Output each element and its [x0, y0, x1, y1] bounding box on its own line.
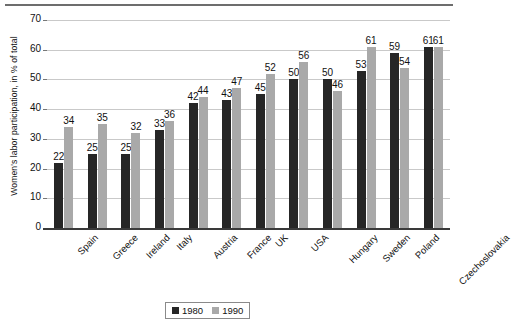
bar-group: 2535: [81, 20, 115, 228]
bar-group: 4244: [181, 20, 215, 228]
bar-1990: 47: [232, 88, 241, 228]
x-axis-label-usa: USA: [309, 232, 331, 254]
legend-label-1990: 1990: [222, 305, 243, 316]
bar-group: 5056: [282, 20, 316, 228]
bar-value-label: 34: [63, 115, 74, 126]
x-axis-label-uk: UK: [273, 232, 290, 249]
bar-value-label: 50: [322, 67, 333, 78]
x-axis-label-hungary: Hungary: [347, 232, 380, 265]
bar-1980: 50: [289, 79, 298, 228]
bar-1980: 59: [390, 53, 399, 228]
bar-group: 2532: [114, 20, 148, 228]
plot-area: 2234253525323336424443474552505650465361…: [47, 20, 450, 228]
bar-1980: 25: [121, 154, 130, 228]
y-tick-label: 40: [11, 102, 41, 113]
bar-1990: 54: [400, 68, 409, 228]
bar-value-label: 44: [198, 85, 209, 96]
y-tick-label: 30: [11, 132, 41, 143]
bar-1990: 44: [199, 97, 208, 228]
x-axis-label-czechoslovakia: Czechoslovakia: [457, 232, 512, 287]
x-axis-category-labels: SpainGreeceIrelandItalyAustriaFranceUKUS…: [47, 232, 450, 292]
bar-value-label: 45: [255, 82, 266, 93]
bar-1990: 36: [165, 121, 174, 228]
bar-1980: 22: [54, 163, 63, 228]
x-axis-label-spain: Spain: [75, 232, 100, 257]
bar-group: 4552: [249, 20, 283, 228]
bar-group: 4347: [215, 20, 249, 228]
legend-item-1980: 1980: [172, 305, 203, 316]
x-axis-label-italy: Italy: [174, 232, 194, 252]
bar-group: 5046: [316, 20, 350, 228]
x-axis-label-ireland: Ireland: [143, 232, 171, 260]
bar-value-label: 36: [164, 109, 175, 120]
bar-value-label: 61: [433, 35, 444, 46]
bar-value-label: 56: [298, 50, 309, 61]
y-tick-label: 60: [11, 43, 41, 54]
bar-value-label: 43: [221, 88, 232, 99]
bar-1990: 35: [98, 124, 107, 228]
bar-1990: 56: [299, 62, 308, 228]
y-tick-label: 20: [11, 162, 41, 173]
bar-1990: 52: [266, 74, 275, 229]
bar-value-label: 47: [231, 76, 242, 87]
bar-1990: 61: [434, 47, 443, 228]
bar-value-label: 54: [399, 56, 410, 67]
bar-1990: 34: [64, 127, 73, 228]
x-axis-label-france: France: [244, 232, 273, 261]
bar-group: 5361: [349, 20, 383, 228]
bar-1980: 50: [323, 79, 332, 228]
bar-1980: 43: [222, 100, 231, 228]
y-tick-label: 50: [11, 72, 41, 83]
bar-value-label: 25: [120, 142, 131, 153]
bar-value-label: 53: [355, 59, 366, 70]
bar-1990: 32: [131, 133, 140, 228]
x-axis-label-greece: Greece: [111, 232, 141, 262]
bar-value-label: 50: [288, 67, 299, 78]
bar-value-label: 61: [365, 35, 376, 46]
bar-1980: 42: [189, 103, 198, 228]
legend-item-1990: 1990: [212, 305, 243, 316]
x-axis-line: [43, 228, 450, 230]
bar-value-label: 32: [130, 121, 141, 132]
legend-label-1980: 1980: [182, 305, 203, 316]
bar-group: 6161: [416, 20, 450, 228]
bar-group: 2234: [47, 20, 81, 228]
y-tick-label: 0: [11, 221, 41, 232]
bar-group: 5954: [383, 20, 417, 228]
chart-legend: 1980 1990: [165, 302, 250, 319]
bar-1980: 33: [155, 130, 164, 228]
bar-groups: 2234253525323336424443474552505650465361…: [47, 20, 450, 228]
x-axis-label-poland: Poland: [412, 232, 441, 261]
bar-value-label: 35: [97, 112, 108, 123]
bar-value-label: 59: [389, 41, 400, 52]
x-axis-label-austria: Austria: [211, 232, 240, 261]
y-tick-label: 70: [11, 13, 41, 24]
legend-swatch-icon-1990: [212, 307, 219, 314]
bar-group: 3336: [148, 20, 182, 228]
y-tick-label: 10: [11, 191, 41, 202]
bar-1980: 61: [424, 47, 433, 228]
bar-1980: 53: [357, 71, 366, 228]
x-axis-label-sweden: Sweden: [380, 232, 412, 264]
legend-swatch-icon-1980: [172, 307, 179, 314]
bar-1990: 46: [333, 91, 342, 228]
bar-1990: 61: [367, 47, 376, 228]
bar-value-label: 46: [332, 79, 343, 90]
top-divider: [5, 4, 453, 6]
bar-1980: 25: [88, 154, 97, 228]
bar-1980: 45: [256, 94, 265, 228]
bar-value-label: 22: [53, 151, 64, 162]
bar-value-label: 25: [87, 142, 98, 153]
bar-value-label: 52: [265, 62, 276, 73]
